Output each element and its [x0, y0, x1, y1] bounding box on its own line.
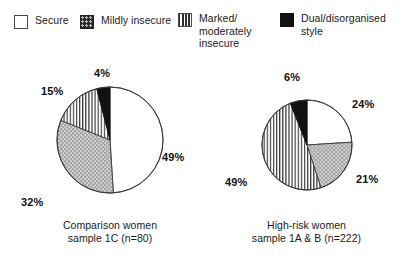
legend-label-secure: Secure: [35, 14, 69, 27]
legend-item-dual-disorganised: Dual/disorganised style: [280, 12, 386, 37]
pie-slice-secure[interactable]: [307, 100, 352, 145]
legend-label-marked-moderately-insecure: Marked/ moderately insecure: [199, 12, 251, 50]
legend-item-mildly-insecure: Mildly insecure: [80, 14, 171, 29]
pie-label-dual-disorganised: 6%: [284, 71, 300, 83]
legend-swatch-mildly-insecure-icon: [80, 15, 94, 29]
legend-item-marked-moderately-insecure: Marked/ moderately insecure: [178, 12, 251, 50]
pie-label-mildly-insecure: 21%: [356, 173, 378, 185]
legend-label-mildly-insecure: Mildly insecure: [101, 14, 171, 27]
pie-label-secure: 24%: [352, 98, 374, 110]
chart-caption-high-risk-women: High-risk women sample 1A & B (n=222): [208, 219, 405, 245]
pie-label-secure: 49%: [162, 151, 184, 163]
chart-legend: Secure Mildly insecure Marked/ moderatel…: [14, 12, 394, 60]
legend-item-secure: Secure: [14, 14, 69, 29]
pie-chart-comparison-women: 49% 32% 15% 4% Comparison women sample 1…: [10, 62, 210, 262]
pie-label-marked-moderately-insecure: 49%: [225, 176, 247, 188]
pie-svg-high-risk-women: [208, 62, 405, 222]
pie-label-marked-moderately-insecure: 15%: [41, 85, 63, 97]
legend-swatch-marked-moderately-insecure-icon: [178, 13, 192, 27]
legend-swatch-dual-disorganised-icon: [280, 13, 294, 27]
pie-label-mildly-insecure: 32%: [21, 196, 43, 208]
pie-chart-high-risk-women: 24% 21% 49% 6% High-risk women sample 1A…: [208, 62, 405, 262]
chart-caption-comparison-women: Comparison women sample 1C (n=80): [10, 219, 210, 245]
legend-label-dual-disorganised: Dual/disorganised style: [301, 12, 386, 37]
pie-label-dual-disorganised: 4%: [94, 67, 110, 79]
legend-swatch-secure-icon: [14, 15, 28, 29]
pie-slice-secure[interactable]: [110, 87, 163, 193]
